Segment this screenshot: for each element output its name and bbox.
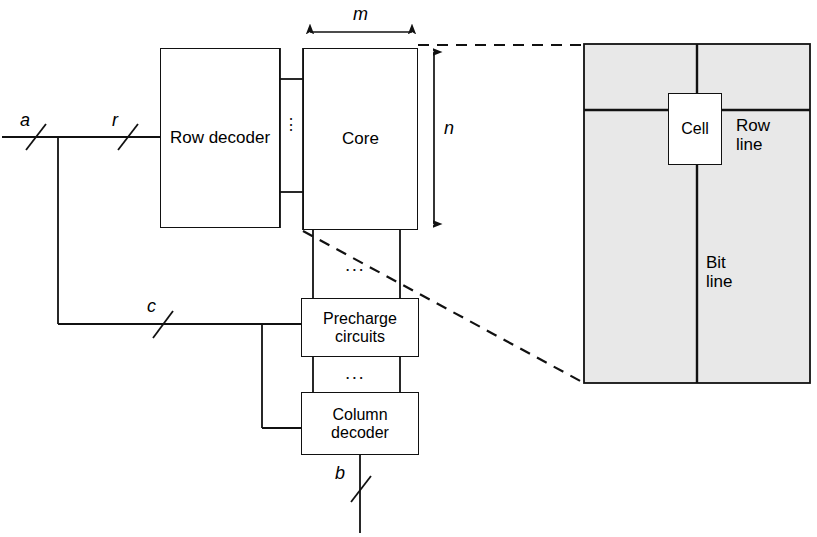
memory-array-diagram: Row decoder Core Precharge circuits Colu… [0, 0, 817, 537]
detail-bit-line-label: Bit line [706, 253, 732, 291]
block-row-decoder[interactable]: Row decoder [160, 48, 280, 228]
block-precharge-circuits-label: Precharge circuits [302, 310, 418, 346]
detail-row-line-label: Row line [736, 116, 770, 154]
core-precharge-ellipsis: ... [345, 254, 365, 276]
block-core[interactable]: Core [303, 48, 418, 230]
detail-cell-label: Cell [681, 120, 709, 138]
signal-label-a: a [20, 110, 30, 130]
detail-cell-box[interactable]: Cell [668, 93, 722, 165]
precharge-column-ellipsis: ... [345, 362, 365, 384]
bus-slash-b [351, 476, 371, 502]
row-core-ellipsis: ⋮ [282, 122, 300, 127]
block-core-label: Core [304, 129, 417, 149]
signal-label-c: c [147, 296, 156, 316]
block-row-decoder-label: Row decoder [161, 128, 279, 148]
data-output-b [351, 455, 371, 533]
block-column-decoder-label: Column decoder [302, 406, 418, 442]
signal-label-r: r [112, 110, 118, 130]
row-decoder-core-links [280, 48, 303, 230]
block-column-decoder[interactable]: Column decoder [301, 392, 419, 455]
dimension-label-m: m [353, 4, 368, 24]
signal-label-b: b [335, 463, 345, 483]
dimension-label-n: n [444, 118, 454, 138]
block-precharge-circuits[interactable]: Precharge circuits [301, 298, 419, 357]
